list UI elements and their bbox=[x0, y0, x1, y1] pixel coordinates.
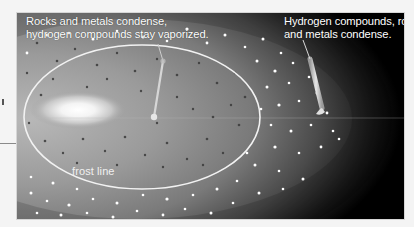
inner-label-line2: hydrogen compounds stay vaporized. bbox=[26, 28, 209, 41]
inner-region-label: Rocks and metals condense, hydrogen comp… bbox=[26, 15, 209, 41]
outer-region-label: Hydrogen compounds, rocks, and metals co… bbox=[284, 15, 404, 41]
nebula-diagram: Rocks and metals condense, hydrogen comp… bbox=[17, 13, 404, 219]
margin-mark bbox=[2, 99, 4, 105]
frost-line-label: frost line bbox=[72, 165, 115, 177]
outer-label-line2: and metals condense. bbox=[284, 28, 404, 41]
outer-label-line1: Hydrogen compounds, rocks, bbox=[284, 15, 404, 28]
protosun bbox=[30, 91, 126, 129]
inner-label-line1: Rocks and metals condense, bbox=[26, 15, 209, 28]
margin-guide-line bbox=[0, 143, 17, 144]
nebula-disk-graphic bbox=[17, 13, 404, 219]
